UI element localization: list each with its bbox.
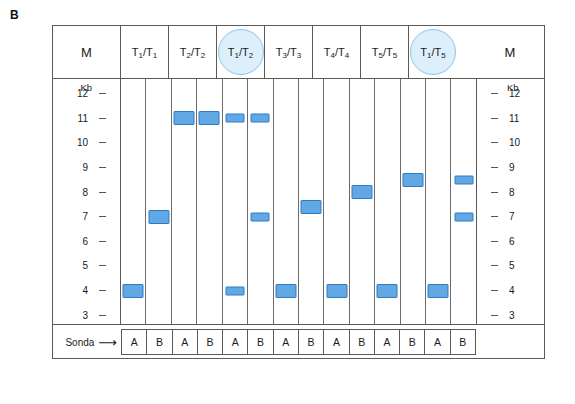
ladder-tick-dash [491,241,498,242]
ladder-tick-dash [99,315,106,316]
header-genotype-5[interactable]: T4/T4 [313,26,361,78]
gel-band-l14-8.5kb [454,175,473,184]
ladder-tick-right-12: 12 [491,87,520,101]
lane-container [121,79,476,324]
probe-cell-5[interactable]: A [222,329,247,355]
gel-band-l2-7kb [148,210,169,224]
header-genotype-7[interactable]: T1/T5 [409,26,457,78]
ladder-tick-dash [99,265,106,266]
header-genotype-label-5: T4/T4 [324,46,349,58]
probe-cells: ABABABABABABAB [121,325,476,359]
ladder-tick-right-6: 6 [491,234,515,248]
ladder-tick-value: 11 [78,113,88,124]
ladder-tick-value: 9 [82,162,88,173]
header-genotype-1[interactable]: T1/T1 [121,26,169,78]
ladder-tick-left-3: 3 [82,308,106,322]
header-genotype-label-4: T3/T3 [276,46,301,58]
header-marker-left-label: M [81,45,92,60]
ladder-tick-value: 5 [509,260,515,271]
probe-cell-4[interactable]: B [197,329,222,355]
gel-lane-11[interactable] [375,79,400,324]
ladder-tick-value: 9 [509,162,515,173]
probe-cell-6[interactable]: B [247,329,272,355]
ladder-tick-dash [99,118,106,119]
ladder-tick-right-8: 8 [491,185,515,199]
ladder-tick-left-6: 6 [82,234,106,248]
gel-band-l7-4kb [275,284,296,298]
ladder-tick-value: 7 [509,211,515,222]
gel-band-l8-7.4kb [301,200,322,214]
ladder-tick-dash [99,192,106,193]
gel-band-l6-7kb [251,212,270,221]
gel-lane-9[interactable] [324,79,349,324]
gel-lane-2[interactable] [146,79,171,324]
ladder-tick-dash [99,216,106,217]
sonda-label: Sonda [65,337,94,348]
probe-cell-2[interactable]: B [146,329,171,355]
gel-lane-14[interactable] [451,79,475,324]
header-marker-right-label: M [505,45,516,60]
gel-lane-8[interactable] [299,79,324,324]
gel-lane-4[interactable] [197,79,222,324]
ladder-tick-right-9: 9 [491,161,515,175]
gel-band-l5-11kb [225,114,244,123]
ladder-tick-value: 8 [509,187,515,198]
probe-cell-9[interactable]: A [323,329,348,355]
ladder-tick-value: 3 [509,310,515,321]
gel-lane-6[interactable] [248,79,273,324]
gel-lane-7[interactable] [274,79,299,324]
ladder-tick-value: 12 [77,88,88,99]
ladder-tick-value: 11 [509,113,519,124]
ladder-tick-dash [491,265,498,266]
ladder-tick-dash [491,290,498,291]
header-genotype-label-7: T1/T5 [420,46,445,58]
gel-lane-3[interactable] [172,79,197,324]
gel-lane-12[interactable] [401,79,426,324]
ladder-tick-left-5: 5 [82,259,106,273]
probe-cell-7[interactable]: A [273,329,298,355]
ladder-tick-dash [99,142,106,143]
ladder-tick-dash [491,93,498,94]
gel-lane-10[interactable] [350,79,375,324]
ladder-tick-dash [491,216,498,217]
gel-band-l12-8.5kb [402,173,423,187]
probe-cell-11[interactable]: A [374,329,399,355]
header-genotype-label-2: T2/T2 [180,46,205,58]
gel-lane-1[interactable] [121,79,146,324]
header-genotype-3[interactable]: T1/T2 [217,26,265,78]
ladder-tick-right-11: 11 [491,111,519,125]
ladder-tick-right-7: 7 [491,210,515,224]
sonda-row: Sonda ⟶ ABABABABABABAB [53,325,544,359]
probe-cell-8[interactable]: B [298,329,323,355]
header-marker-right: M [476,26,544,78]
probe-cell-1[interactable]: A [121,329,146,355]
ladder-tick-right-5: 5 [491,259,515,273]
ladder-tick-left-4: 4 [82,284,106,298]
header-genotype-4[interactable]: T3/T3 [265,26,313,78]
ladder-tick-value: 4 [509,285,515,296]
ladder-tick-right-10: 10 [491,136,520,150]
header-genotype-2[interactable]: T2/T2 [169,26,217,78]
gel-lane-13[interactable] [426,79,451,324]
ladder-tick-left-9: 9 [82,161,106,175]
ladder-tick-dash [99,167,106,168]
genotype-headers: T1/T1T2/T2T1/T2T3/T3T4/T4T5/T5T1/T5 [121,26,476,78]
sonda-arrow-icon: ⟶ [98,336,117,349]
header-row: M T1/T1T2/T2T1/T2T3/T3T4/T4T5/T5T1/T5 M [53,26,544,79]
ladder-tick-value: 6 [509,236,515,247]
ladder-right: Kb 1211109876543 [476,79,544,324]
probe-cell-13[interactable]: A [424,329,449,355]
ladder-left: Kb 1211109876543 [53,79,121,324]
ladder-tick-left-12: 12 [77,87,106,101]
ladder-tick-left-8: 8 [82,185,106,199]
ladder-tick-dash [491,192,498,193]
probe-cell-12[interactable]: B [399,329,424,355]
probe-cell-3[interactable]: A [172,329,197,355]
probe-cell-14[interactable]: B [450,329,476,355]
gel-band-l3-11kb [174,111,195,125]
probe-cell-10[interactable]: B [349,329,374,355]
ladder-tick-value: 12 [509,88,520,99]
header-genotype-6[interactable]: T5/T5 [361,26,409,78]
ladder-tick-dash [491,315,498,316]
gel-lane-5[interactable] [223,79,248,324]
